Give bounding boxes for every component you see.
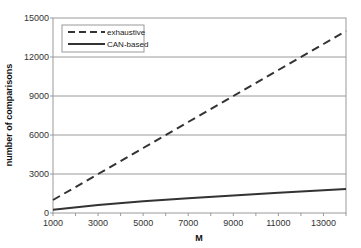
x-tick-label: 3000	[88, 218, 108, 228]
x-tick-label: 11000	[266, 218, 290, 228]
legend-label-exhaustive: exhaustive	[107, 28, 146, 37]
legend-label-can-based: CAN-based	[107, 40, 148, 49]
y-tick-label: 3000	[29, 169, 49, 179]
x-axis-ticks: 100030005000700090001100013000	[43, 213, 346, 228]
x-tick-label: 5000	[133, 218, 153, 228]
series-can-based	[53, 189, 346, 210]
x-tick-label: 9000	[223, 218, 243, 228]
y-tick-label: 6000	[29, 130, 49, 140]
legend: exhaustive CAN-based	[62, 25, 148, 52]
series-exhaustive	[53, 31, 346, 200]
x-axis-label: M	[195, 233, 203, 243]
x-tick-label: 7000	[178, 218, 198, 228]
y-axis-ticks: 03000600090001200015000	[24, 13, 53, 218]
x-tick-label: 1000	[43, 218, 63, 228]
line-chart: 03000600090001200015000 1000300050007000…	[0, 0, 361, 248]
data-series	[53, 31, 346, 210]
y-tick-label: 9000	[29, 91, 49, 101]
y-tick-label: 12000	[24, 52, 49, 62]
x-tick-label: 13000	[311, 218, 336, 228]
y-tick-label: 0	[44, 208, 49, 218]
y-axis-label: number of comparisons	[4, 64, 14, 167]
y-tick-label: 15000	[24, 13, 49, 23]
